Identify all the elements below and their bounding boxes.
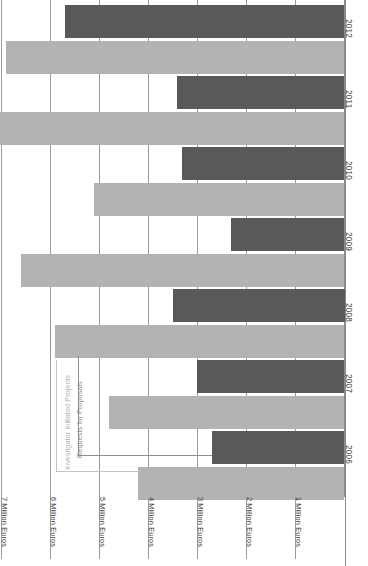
bar-rfp-2007: [197, 360, 344, 393]
plot-area: [0, 0, 345, 497]
year-label-2007: 2007: [343, 374, 354, 414]
value-axis-label-5m: 5 Million Euros: [96, 497, 108, 566]
bar-rfp-2006: [212, 431, 344, 464]
value-axis-label-3m: 3 Million Euros: [194, 497, 206, 566]
year-label-2012: 2012: [343, 19, 354, 59]
bar-rfp-2011: [177, 76, 344, 109]
bar-rfp-2012: [65, 5, 344, 38]
category-axis-year-labels: 2012201120102009200820072006: [345, 0, 368, 566]
gridline-5m: [99, 0, 100, 497]
bar-iip-2008: [55, 325, 344, 358]
bar-rfp-2009: [231, 218, 344, 251]
bar-iip-2010: [94, 183, 344, 216]
bar-iip-2009: [21, 254, 344, 287]
value-axis-label-2m: 2 Million Euros: [243, 497, 255, 566]
bar-iip-2007: [109, 396, 344, 429]
value-axis-tick-labels: 7 Million Euros6 Million Euros5 Million …: [0, 497, 345, 566]
year-label-2008: 2008: [343, 303, 354, 343]
value-axis-label-6m: 6 Million Euros: [47, 497, 59, 566]
bar-rfp-2008: [173, 289, 345, 322]
year-label-2009: 2009: [343, 232, 354, 272]
chart-figure: 7 Million Euros6 Million Euros5 Million …: [0, 0, 368, 566]
year-label-2006: 2006: [343, 445, 354, 485]
year-label-2010: 2010: [343, 161, 354, 201]
value-axis-label-4m: 4 Million Euros: [145, 497, 157, 566]
gridline-6m: [50, 0, 51, 497]
bar-iip-2012: [6, 41, 344, 74]
bar-rfp-2010: [182, 147, 344, 180]
bar-iip-2011: [0, 112, 344, 145]
value-axis-label-1m: 1 Million Euros: [292, 497, 304, 566]
bar-iip-2006: [138, 467, 344, 500]
value-axis-label-7m: 7 Million Euros: [0, 497, 10, 566]
gridline-7m: [1, 0, 2, 497]
year-label-2011: 2011: [343, 90, 354, 130]
